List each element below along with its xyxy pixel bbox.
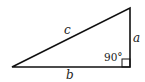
right-triangle-diagram: c a b 90° xyxy=(0,0,145,82)
side-label-b: b xyxy=(66,68,74,82)
hypotenuse-label-c: c xyxy=(64,23,71,37)
right-angle-marker xyxy=(122,59,130,67)
side-label-a: a xyxy=(133,31,140,45)
right-angle-label: 90° xyxy=(104,51,123,63)
